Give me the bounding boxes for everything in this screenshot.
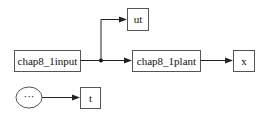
block-x[interactable]: x bbox=[234, 51, 255, 72]
block-ut[interactable]: ut bbox=[128, 9, 149, 31]
block-label: x bbox=[241, 55, 247, 67]
block-diagram: chap8_1input ut chap8_1plant x ··· t bbox=[0, 0, 264, 120]
block-label: ··· bbox=[24, 90, 35, 102]
block-chap8-1plant[interactable]: chap8_1plant bbox=[133, 51, 201, 72]
arrow-head-icon bbox=[119, 17, 127, 23]
wire-junction-ut bbox=[101, 20, 121, 61]
block-clock[interactable]: ··· bbox=[16, 87, 42, 108]
block-label: chap8_1plant bbox=[137, 55, 196, 67]
arrow-head-icon bbox=[225, 58, 233, 64]
block-label: ut bbox=[134, 13, 143, 25]
block-label: t bbox=[89, 92, 92, 104]
block-label: chap8_1input bbox=[18, 55, 78, 67]
block-t[interactable]: t bbox=[81, 88, 101, 109]
arrow-head-icon bbox=[72, 95, 80, 101]
arrow-head-icon bbox=[124, 58, 132, 64]
block-chap8-1input[interactable]: chap8_1input bbox=[15, 51, 81, 72]
